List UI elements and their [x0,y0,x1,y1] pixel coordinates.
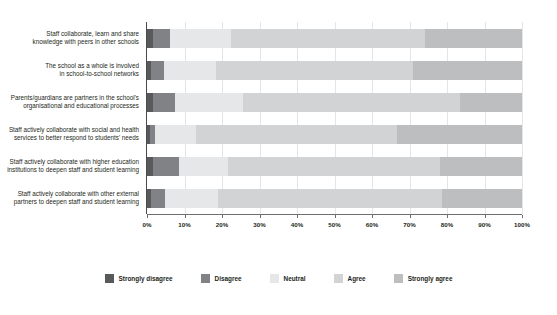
category-label-line: institutions to deepen staff and student… [0,166,139,174]
gridline [447,22,448,214]
bar-segment [153,29,170,48]
bar-row [147,125,522,144]
bar-segment [228,157,440,176]
bar-row [147,157,522,176]
bar-segment [216,61,413,80]
x-axis-tick-label: 60% [366,221,378,228]
bar-segment [397,125,522,144]
bar-segment [153,93,176,112]
stacked-bar-chart: Staff collaborate, learn and shareknowle… [0,0,557,315]
category-label-line: Staff actively collaborate with higher e… [0,158,139,166]
bar-segment [179,157,228,176]
bar-segment [155,125,196,144]
gridline [260,22,261,214]
category-label-line: services to better respond to students' … [0,134,139,142]
category-label: Parents/guardians are partners in the sc… [0,86,139,118]
x-axis-tick [185,215,186,218]
category-label-line: Staff actively collaborate with other ex… [0,190,139,198]
category-label-line: organisational and educational processes [0,102,139,110]
plot-area [147,22,522,214]
x-axis-tick-label: 100% [514,221,530,228]
legend-item[interactable]: Agree [334,274,366,283]
legend-item[interactable]: Neutral [270,274,306,283]
category-label-line: Parents/guardians are partners in the sc… [0,94,139,102]
x-axis-tick [260,215,261,218]
legend-label: Agree [348,275,366,282]
legend-label: Strongly disagree [119,275,173,282]
gridline [297,22,298,214]
category-label: Staff actively collaborate with other ex… [0,182,139,214]
category-label-line: Staff actively collaborate with social a… [0,126,139,134]
category-label: Staff collaborate, learn and shareknowle… [0,22,139,54]
legend-label: Disagree [215,275,242,282]
category-label-line: knowledge with peers in other schools [0,38,139,46]
x-axis-tick [410,215,411,218]
bar-segment [153,157,179,176]
legend-item[interactable]: Strongly agree [394,274,453,283]
x-axis-tick [522,215,523,218]
category-axis-labels: Staff collaborate, learn and shareknowle… [0,22,143,214]
x-axis-tick [335,215,336,218]
legend-label: Neutral [284,275,306,282]
bar-segment [231,29,424,48]
category-label: The school as a whole is involvedin scho… [0,54,139,86]
bar-segment [151,61,164,80]
bar-segment [170,29,232,48]
x-axis-tick-label: 90% [478,221,490,228]
category-label-line: partners to deepen staff and student lea… [0,198,139,206]
gridline [485,22,486,214]
x-axis-tick [485,215,486,218]
gridline [522,22,523,214]
x-axis-tick-label: 0% [143,221,152,228]
bar-row [147,189,522,208]
category-label-line: Staff collaborate, learn and share [0,30,139,38]
gridlines [147,22,522,214]
category-label: Staff actively collaborate with social a… [0,118,139,150]
bar-row [147,61,522,80]
chart-title [0,0,557,4]
gridline [185,22,186,214]
legend-swatch-icon [201,274,210,283]
bar-segment [425,29,523,48]
bar-segment [196,125,397,144]
gridline [410,22,411,214]
x-axis-tick-label: 40% [291,221,303,228]
bar-segment [165,189,218,208]
gridline [222,22,223,214]
legend-swatch-icon [394,274,403,283]
legend-swatch-icon [270,274,279,283]
x-axis-tick-label: 20% [216,221,228,228]
bar-segment [175,93,243,112]
bar-segment [164,61,217,80]
gridline [335,22,336,214]
x-axis-tick [447,215,448,218]
x-axis-tick [372,215,373,218]
category-label-line: in school-to-school networks [0,70,139,78]
category-label: Staff actively collaborate with higher e… [0,150,139,182]
category-label-line: The school as a whole is involved [0,62,139,70]
bar-row [147,29,522,48]
bar-segment [151,189,165,208]
bar-segment [460,93,522,112]
legend-item[interactable]: Disagree [201,274,242,283]
x-axis-tick [147,215,148,218]
x-axis-tick [222,215,223,218]
bar-segment [218,189,442,208]
x-axis-tick-label: 50% [328,221,340,228]
x-axis-tick-label: 30% [253,221,265,228]
bar-row [147,93,522,112]
legend-swatch-icon [334,274,343,283]
x-axis-tick-label: 70% [403,221,415,228]
chart-legend: Strongly disagreeDisagreeNeutralAgreeStr… [0,274,557,283]
legend-item[interactable]: Strongly disagree [105,274,173,283]
legend-label: Strongly agree [408,275,453,282]
bar-segment [243,93,461,112]
bar-segment [440,157,523,176]
legend-swatch-icon [105,274,114,283]
x-axis-tick-label: 80% [441,221,453,228]
bar-segment [442,189,522,208]
x-axis-tick-label: 10% [178,221,190,228]
gridline [372,22,373,214]
x-axis-tick [297,215,298,218]
bar-segment [413,61,522,80]
